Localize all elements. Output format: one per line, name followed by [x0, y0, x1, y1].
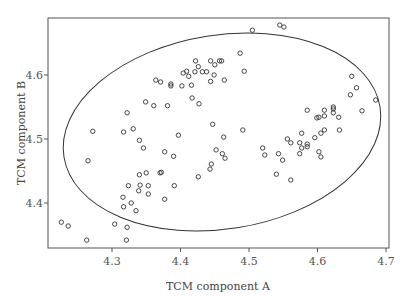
data-point [242, 69, 246, 73]
data-point [322, 108, 326, 112]
data-point [282, 25, 286, 29]
data-point [300, 146, 304, 150]
data-point [146, 184, 150, 188]
data-point [165, 104, 169, 108]
data-point [374, 98, 378, 102]
data-point [91, 129, 95, 133]
data-point [250, 28, 254, 32]
data-point [241, 128, 245, 132]
data-point [125, 111, 129, 115]
data-point [126, 184, 130, 188]
data-point [208, 79, 212, 83]
data-point [220, 152, 224, 156]
data-point [319, 131, 323, 135]
data-point [211, 122, 215, 126]
plot-frame [48, 18, 389, 248]
data-point [298, 152, 302, 156]
data-point [337, 115, 341, 119]
x-axis-title: TCM component A [166, 280, 271, 293]
x-tick-label: 4.7 [377, 255, 395, 268]
x-axis: 4.34.44.54.64.7 [103, 248, 395, 268]
data-point [313, 136, 317, 140]
data-point [208, 167, 212, 171]
data-point [196, 175, 200, 179]
data-point [285, 137, 289, 141]
x-tick-label: 4.6 [309, 255, 327, 268]
data-point [208, 59, 212, 63]
data-point [171, 154, 175, 158]
data-point [300, 131, 304, 135]
data-point [322, 114, 326, 118]
data-point [144, 171, 148, 175]
data-point [187, 74, 191, 78]
data-point [121, 130, 125, 134]
y-axis-title: TCM component B [15, 81, 28, 185]
data-point [305, 108, 309, 112]
x-tick-label: 4.3 [103, 255, 121, 268]
data-point [137, 173, 141, 177]
data-point [152, 104, 156, 108]
data-point [222, 135, 226, 139]
data-point [212, 73, 216, 77]
data-points [59, 23, 378, 242]
data-point [223, 156, 227, 160]
data-point [222, 78, 226, 82]
data-point [172, 184, 176, 188]
data-point [113, 222, 117, 226]
data-point [158, 80, 162, 84]
data-point [163, 197, 167, 201]
data-point [143, 100, 147, 104]
data-point [348, 93, 352, 97]
data-point [66, 224, 70, 228]
data-point [176, 133, 180, 137]
data-point [214, 148, 218, 152]
data-point [154, 78, 158, 82]
data-point [276, 152, 280, 156]
data-point [59, 220, 63, 224]
data-point [124, 238, 128, 242]
data-point [209, 162, 213, 166]
confidence-ellipse [49, 11, 395, 253]
data-point [350, 74, 354, 78]
data-point [289, 178, 293, 182]
data-point [193, 70, 197, 74]
data-point [197, 102, 201, 106]
data-point [274, 172, 278, 176]
data-point [298, 141, 302, 145]
data-point [163, 150, 167, 154]
data-point [289, 141, 293, 145]
y-tick-label: 4.6 [26, 69, 44, 82]
data-point [354, 86, 358, 90]
data-point [196, 65, 200, 69]
data-point [141, 146, 145, 150]
data-point [137, 138, 141, 142]
data-point [360, 109, 364, 113]
data-point [319, 155, 323, 159]
data-point [261, 146, 265, 150]
data-point [138, 183, 142, 187]
data-point [131, 127, 135, 131]
x-tick-label: 4.5 [240, 255, 258, 268]
data-point [238, 51, 242, 55]
data-point [134, 209, 138, 213]
y-tick-label: 4.4 [26, 197, 44, 210]
data-point [129, 201, 133, 205]
data-point [180, 84, 184, 88]
data-point [213, 63, 217, 67]
data-point [189, 83, 193, 87]
data-point [146, 192, 150, 196]
scatter-chart: 4.34.44.54.64.7 4.44.54.6 TCM component … [0, 0, 410, 297]
x-tick-label: 4.4 [172, 255, 190, 268]
data-point [137, 189, 141, 193]
data-point [317, 150, 321, 154]
y-axis: 4.44.54.6 [26, 69, 49, 210]
data-point [125, 225, 129, 229]
data-point [190, 96, 194, 100]
data-point [280, 158, 284, 162]
data-point [185, 69, 189, 73]
data-point [193, 59, 197, 63]
y-tick-label: 4.5 [26, 133, 44, 146]
data-point [86, 159, 90, 163]
data-point [263, 153, 267, 157]
data-point [337, 128, 341, 132]
